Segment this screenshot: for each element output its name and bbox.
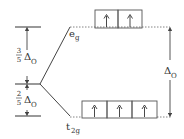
spin-up-electron-icon — [92, 105, 97, 117]
crystal-field-diagram: 3 5 Δ O 2 5 Δ O e g t 2g — [0, 0, 184, 139]
eg-orbital-boxes — [95, 10, 142, 28]
svg-text:g: g — [75, 34, 80, 42]
svg-text:2g: 2g — [71, 127, 80, 135]
lower-gap-label: 2 5 Δ O — [16, 90, 37, 109]
eg-split-line — [40, 27, 70, 84]
total-splitting-label: Δ O — [164, 65, 177, 80]
spin-up-electron-icon — [128, 15, 133, 28]
svg-text:O: O — [31, 101, 37, 109]
spin-up-electron-icon — [142, 105, 147, 117]
spin-up-electron-icon — [117, 105, 122, 117]
svg-text:t: t — [66, 121, 70, 132]
svg-text:O: O — [31, 58, 37, 66]
t2g-label: t 2g — [66, 121, 80, 135]
svg-text:3: 3 — [17, 47, 21, 55]
t2g-orbital-boxes — [82, 101, 157, 118]
svg-text:O: O — [171, 72, 177, 80]
spin-up-electron-icon — [104, 15, 109, 28]
upper-gap-label: 3 5 Δ O — [16, 47, 37, 66]
eg-label: e g — [69, 28, 80, 42]
svg-text:5: 5 — [17, 99, 21, 107]
svg-text:5: 5 — [17, 56, 21, 64]
svg-text:2: 2 — [17, 90, 21, 98]
t2g-split-line — [40, 84, 70, 116]
